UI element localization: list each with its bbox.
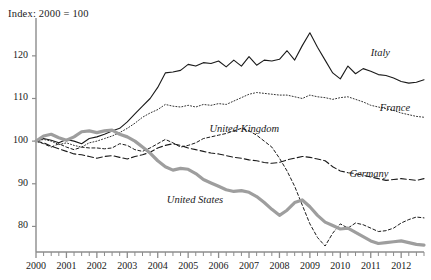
- y-axis-tick-label: 110: [2, 91, 28, 102]
- x-axis-tick-label: 2007: [232, 260, 266, 271]
- x-axis-tick-label: 2002: [80, 260, 114, 271]
- x-axis-tick-label: 2009: [293, 260, 327, 271]
- y-axis-tick-label: 120: [2, 49, 28, 60]
- x-axis-tick-label: 2008: [262, 260, 296, 271]
- series-label-germany: Germany: [349, 168, 388, 179]
- y-axis-tick-label: 90: [2, 177, 28, 188]
- chart-container: Index: 2000 = 100 8090100110120200020012…: [0, 0, 431, 280]
- y-axis-tick-label: 100: [2, 134, 28, 145]
- series-line-france: [36, 93, 424, 148]
- chart-plot-area: [0, 0, 431, 280]
- series-line-united-kingdom: [36, 128, 424, 246]
- x-axis-tick-label: 2004: [141, 260, 175, 271]
- series-label-france: France: [380, 102, 410, 113]
- series-label-united-states: United States: [167, 194, 223, 205]
- x-axis-tick-label: 2000: [19, 260, 53, 271]
- x-axis-tick-label: 2003: [110, 260, 144, 271]
- x-axis-tick-label: 2006: [202, 260, 236, 271]
- x-axis-tick-label: 2011: [354, 260, 388, 271]
- series-label-italy: Italy: [371, 47, 390, 58]
- y-axis-tick-label: 80: [2, 219, 28, 230]
- x-axis-tick-label: 2001: [49, 260, 83, 271]
- x-axis-tick-label: 2010: [323, 260, 357, 271]
- series-line-united-states: [36, 130, 424, 245]
- x-axis-tick-label: 2012: [384, 260, 418, 271]
- x-axis-tick-label: 2005: [171, 260, 205, 271]
- series-label-united-kingdom: United Kingdom: [209, 123, 279, 134]
